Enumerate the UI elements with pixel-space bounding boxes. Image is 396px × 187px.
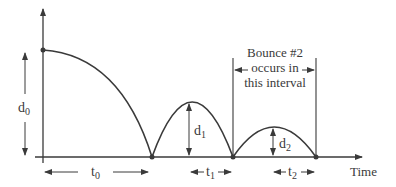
interval-annotation: Bounce #2 occurs in this interval (236, 45, 314, 90)
start-point (41, 48, 46, 53)
t0-label: t0 (91, 164, 100, 181)
annotation-line-3: this interval (236, 75, 314, 90)
t2-label: t2 (288, 164, 297, 181)
bounce-2-curve (233, 127, 316, 157)
drop-curve (43, 50, 152, 157)
bounce-diagram: d0 d1 d2 t0 t1 t2 Time (0, 0, 396, 187)
bounce-1-curve (152, 102, 233, 157)
annotation-line-2: occurs in (236, 60, 314, 75)
t1-label: t1 (206, 164, 215, 181)
x-axis-label: Time (350, 164, 377, 179)
d0-label: d0 (18, 100, 30, 117)
annotation-line-1: Bounce #2 (236, 45, 314, 60)
contact-point-1 (150, 155, 155, 160)
d2-label: d2 (279, 136, 291, 153)
d1-label: d1 (194, 123, 206, 140)
